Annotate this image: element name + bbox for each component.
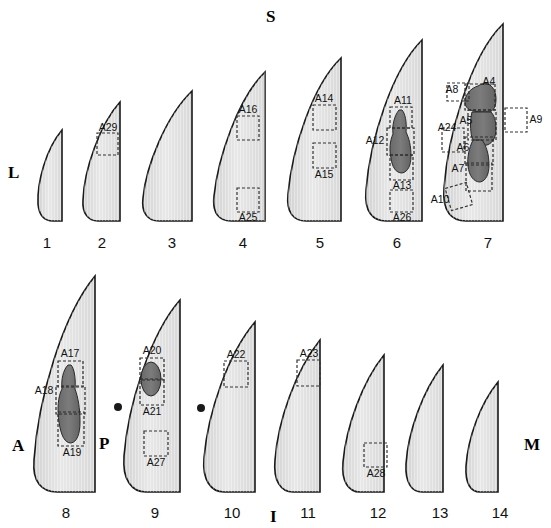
sections-canvas [0, 0, 551, 528]
roi-label-A20: A20 [143, 345, 162, 356]
roi-label-A21: A21 [143, 406, 162, 417]
section-shape-2 [83, 102, 120, 221]
roi-label-A19: A19 [63, 447, 82, 458]
roi-label-A15: A15 [315, 169, 334, 180]
roi-label-A12: A12 [366, 135, 385, 146]
orientation-label-superior: S [266, 8, 275, 25]
roi-label-A16: A16 [239, 104, 258, 115]
roi-label-A5: A5 [460, 115, 473, 126]
roi-label-A28: A28 [367, 468, 386, 479]
roi-label-A23: A23 [300, 348, 319, 359]
section-shape-5 [288, 58, 341, 221]
roi-label-A13: A13 [393, 180, 412, 191]
section-number-6: 6 [393, 235, 401, 250]
dark-region-7-lower [468, 140, 489, 182]
section-number-2: 2 [98, 235, 106, 250]
section-shape-3 [143, 91, 192, 221]
section-number-10: 10 [224, 505, 241, 520]
section-shape-13 [406, 365, 443, 492]
roi-label-A26: A26 [393, 212, 412, 223]
section-number-14: 14 [492, 505, 509, 520]
roi-label-A29: A29 [99, 122, 118, 133]
roi-box-A9 [505, 108, 527, 132]
orientation-label-medial: M [524, 436, 540, 453]
landmark-dot-9 [114, 403, 122, 411]
roi-label-A7: A7 [452, 163, 465, 174]
roi-label-A14: A14 [315, 93, 334, 104]
section-shape-14 [466, 382, 498, 492]
anatomical-section-figure: S I L M A P 1 2 3 4 5 6 7 8 9 10 11 12 1… [0, 0, 551, 528]
roi-label-A27: A27 [147, 457, 166, 468]
landmark-dot-10 [197, 404, 205, 412]
section-number-11: 11 [300, 505, 316, 520]
roi-label-A9: A9 [530, 114, 543, 125]
roi-label-A4: A4 [483, 76, 496, 87]
roi-label-A24: A24 [438, 122, 457, 133]
roi-label-A22: A22 [227, 349, 246, 360]
roi-label-A8: A8 [446, 84, 459, 95]
section-number-12: 12 [370, 505, 387, 520]
section-number-4: 4 [239, 235, 247, 250]
roi-label-A11: A11 [394, 95, 412, 106]
section-shape-1 [38, 130, 62, 221]
section-number-13: 13 [432, 505, 449, 520]
orientation-label-inferior: I [270, 508, 277, 525]
section-number-1: 1 [43, 235, 51, 250]
roi-label-A10: A10 [431, 194, 450, 205]
section-number-5: 5 [316, 235, 324, 250]
roi-label-A18: A18 [35, 385, 54, 396]
section-number-7: 7 [484, 235, 492, 250]
section-shape-4 [214, 72, 265, 221]
roi-label-A6: A6 [457, 142, 470, 153]
orientation-label-anterior: A [12, 437, 24, 454]
section-number-9: 9 [151, 505, 159, 520]
orientation-label-lateral: L [8, 164, 19, 181]
roi-label-A17: A17 [61, 348, 80, 359]
orientation-label-posterior: P [99, 435, 109, 452]
roi-label-A25: A25 [239, 212, 258, 223]
section-number-8: 8 [62, 505, 70, 520]
section-number-3: 3 [168, 235, 176, 250]
